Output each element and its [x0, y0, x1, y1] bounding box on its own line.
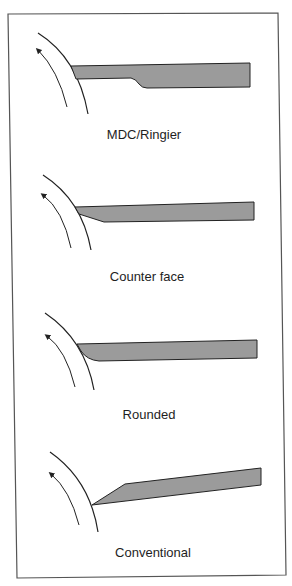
blade-stepped: [71, 63, 250, 88]
panel-label: Counter face: [110, 269, 184, 284]
doctor-blade-diagram: MDC/Ringier Counter face Rounded Convent…: [0, 0, 292, 586]
panel-label: Rounded: [123, 407, 176, 422]
roll-surface-arc: [50, 452, 98, 532]
blade-angled-bevel-top: [92, 468, 261, 505]
blade-bevel-bottom: [75, 202, 254, 222]
panel-mdc-ringier: MDC/Ringier: [38, 33, 250, 142]
rotation-arrow-icon: [47, 336, 75, 387]
panel-rounded: Rounded: [45, 313, 257, 422]
rotation-arrow-icon: [43, 195, 71, 248]
panel-label: Conventional: [115, 545, 191, 560]
panel-label: MDC/Ringier: [107, 127, 182, 142]
panel-counter-face: Counter face: [43, 175, 254, 284]
panel-conventional: Conventional: [50, 452, 261, 560]
blade-rounded-bottom: [77, 340, 257, 361]
rotation-arrow-icon: [51, 474, 79, 525]
rotation-arrow-icon: [38, 50, 67, 107]
